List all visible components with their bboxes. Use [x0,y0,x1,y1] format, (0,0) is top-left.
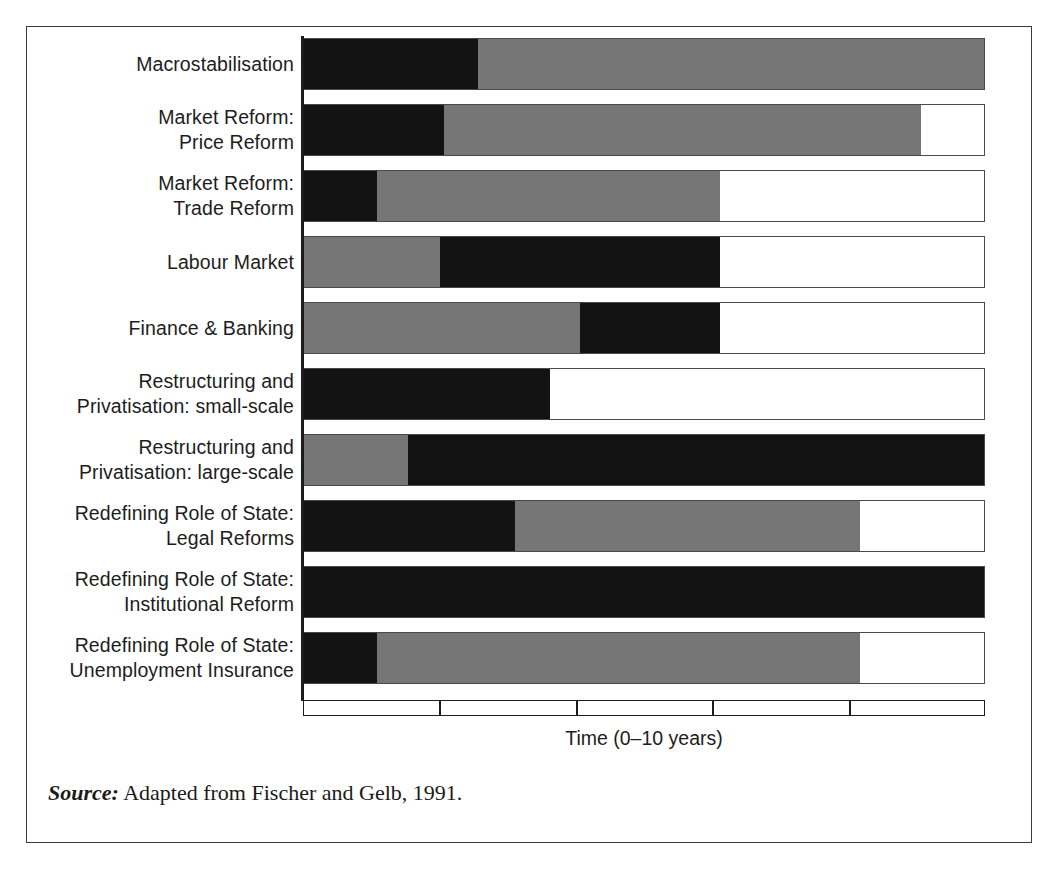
bar [303,104,985,156]
x-axis-band [303,700,985,716]
bar-segment-black [304,369,550,419]
chart-row: Redefining Role of State:Institutional R… [0,566,1056,618]
chart-row: Restructuring andPrivatisation: large-sc… [0,434,1056,486]
bar-segment-gray [444,105,921,155]
row-label: Redefining Role of State:Institutional R… [0,567,294,617]
row-label-line: Redefining Role of State: [0,567,294,592]
x-axis-title: Time (0–10 years) [303,727,985,750]
row-label-line: Finance & Banking [0,316,294,341]
chart-row: Redefining Role of State:Legal Reforms [0,500,1056,552]
bar-segment-white [720,171,985,221]
row-label: Restructuring andPrivatisation: small-sc… [0,369,294,419]
row-label: Labour Market [0,250,294,275]
chart-row: Labour Market [0,236,1056,288]
row-label-line: Macrostabilisation [0,52,294,77]
bar-chart: MacrostabilisationMarket Reform:Price Re… [0,0,1056,869]
bar-segment-black [304,567,985,617]
row-label-line: Trade Reform [0,196,294,221]
row-label-line: Redefining Role of State: [0,501,294,526]
bar [303,302,985,354]
bar-segment-gray [304,303,580,353]
row-label-line: Market Reform: [0,171,294,196]
row-label: Finance & Banking [0,316,294,341]
bar-segment-black [304,105,444,155]
row-label-line: Restructuring and [0,369,294,394]
row-label-line: Legal Reforms [0,526,294,551]
bar-segment-black [304,633,377,683]
bar-segment-gray [304,237,440,287]
bar-segment-gray [304,435,408,485]
row-label-line: Privatisation: large-scale [0,460,294,485]
chart-row: Market Reform:Price Reform [0,104,1056,156]
row-label: Macrostabilisation [0,52,294,77]
bar [303,368,985,420]
row-label-line: Redefining Role of State: [0,633,294,658]
bar-segment-gray [377,633,860,683]
x-axis-tick [576,701,578,715]
source-text: Adapted from Fischer and Gelb, 1991. [119,780,462,805]
bar [303,500,985,552]
chart-row: Finance & Banking [0,302,1056,354]
row-label: Redefining Role of State:Legal Reforms [0,501,294,551]
bar [303,170,985,222]
row-label-line: Privatisation: small-scale [0,394,294,419]
bar-segment-white [860,633,985,683]
x-axis-tick [712,701,714,715]
row-label-line: Restructuring and [0,435,294,460]
row-label-line: Labour Market [0,250,294,275]
bar-segment-gray [478,39,985,89]
bar-segment-black [304,171,377,221]
row-label: Redefining Role of State:Unemployment In… [0,633,294,683]
x-axis-tick [439,701,441,715]
source-label: Source: [48,780,119,805]
bar-segment-black [408,435,985,485]
chart-row: Restructuring andPrivatisation: small-sc… [0,368,1056,420]
bar-segment-white [720,303,985,353]
row-label-line: Price Reform [0,130,294,155]
x-axis-tick [849,701,851,715]
bar-segment-white [860,501,985,551]
row-label: Market Reform:Price Reform [0,105,294,155]
bar-segment-gray [377,171,720,221]
row-label: Market Reform:Trade Reform [0,171,294,221]
row-label-line: Unemployment Insurance [0,658,294,683]
y-axis-line [301,36,304,701]
bar [303,566,985,618]
chart-row: Macrostabilisation [0,38,1056,90]
bar-segment-white [720,237,985,287]
bar [303,434,985,486]
row-label: Restructuring andPrivatisation: large-sc… [0,435,294,485]
figure-container: MacrostabilisationMarket Reform:Price Re… [0,0,1056,869]
bar-segment-black [440,237,720,287]
bar-segment-black [304,39,478,89]
row-label-line: Market Reform: [0,105,294,130]
bar-segment-white [550,369,985,419]
bar [303,38,985,90]
bar [303,236,985,288]
chart-row: Redefining Role of State:Unemployment In… [0,632,1056,684]
bar [303,632,985,684]
source-note: Source: Adapted from Fischer and Gelb, 1… [48,780,462,806]
bar-segment-gray [515,501,859,551]
row-label-line: Institutional Reform [0,592,294,617]
bar-segment-white [921,105,985,155]
chart-row: Market Reform:Trade Reform [0,170,1056,222]
bar-segment-black [304,501,515,551]
bar-segment-black [580,303,720,353]
